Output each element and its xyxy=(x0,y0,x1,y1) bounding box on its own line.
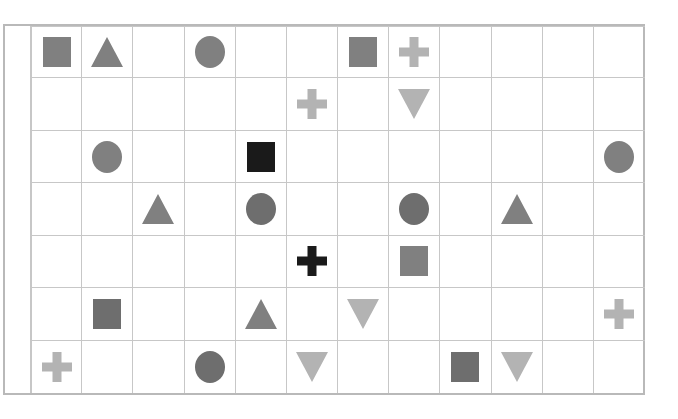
grid-cell[interactable] xyxy=(82,341,133,393)
grid-cell[interactable] xyxy=(287,341,338,393)
grid-cell[interactable] xyxy=(133,183,184,235)
grid-cell[interactable] xyxy=(594,78,645,130)
grid-cell[interactable] xyxy=(543,131,594,183)
grid-cell[interactable] xyxy=(133,341,184,393)
grid-cell[interactable] xyxy=(31,236,82,288)
cross-icon xyxy=(297,246,327,276)
figure-canvas xyxy=(0,0,678,419)
grid-cell[interactable] xyxy=(338,78,389,130)
grid-cell[interactable] xyxy=(543,26,594,78)
grid-cell[interactable] xyxy=(492,288,543,340)
grid-cell[interactable] xyxy=(236,131,287,183)
grid-cell[interactable] xyxy=(492,236,543,288)
grid-cell[interactable] xyxy=(287,26,338,78)
grid-cell[interactable] xyxy=(543,288,594,340)
grid-cell[interactable] xyxy=(287,78,338,130)
triangle-up-icon xyxy=(501,194,533,224)
grid-cell[interactable] xyxy=(389,78,440,130)
grid-cell[interactable] xyxy=(338,131,389,183)
grid-cell[interactable] xyxy=(82,131,133,183)
grid-cell[interactable] xyxy=(389,341,440,393)
grid-cell[interactable] xyxy=(389,288,440,340)
circle-icon xyxy=(399,193,429,225)
grid-cell[interactable] xyxy=(133,288,184,340)
grid-cell[interactable] xyxy=(440,26,491,78)
grid-cell[interactable] xyxy=(389,131,440,183)
grid-cell[interactable] xyxy=(594,131,645,183)
grid-cell[interactable] xyxy=(338,26,389,78)
triangle-down-icon xyxy=(398,89,430,119)
grid-cell[interactable] xyxy=(440,288,491,340)
grid-cell[interactable] xyxy=(31,131,82,183)
grid-cell[interactable] xyxy=(185,183,236,235)
grid-cell[interactable] xyxy=(338,236,389,288)
grid-cell[interactable] xyxy=(492,26,543,78)
grid-cell[interactable] xyxy=(440,236,491,288)
grid-cell[interactable] xyxy=(594,236,645,288)
grid-cell[interactable] xyxy=(185,341,236,393)
grid-cell[interactable] xyxy=(133,131,184,183)
grid-cell[interactable] xyxy=(338,341,389,393)
square-icon xyxy=(400,246,428,276)
grid-cell[interactable] xyxy=(236,288,287,340)
triangle-down-icon xyxy=(501,352,533,382)
grid-cell[interactable] xyxy=(440,131,491,183)
grid-cell[interactable] xyxy=(492,131,543,183)
grid-cell[interactable] xyxy=(236,78,287,130)
grid-cell[interactable] xyxy=(31,26,82,78)
grid-cell[interactable] xyxy=(492,183,543,235)
grid-cell[interactable] xyxy=(236,341,287,393)
grid-cell[interactable] xyxy=(440,78,491,130)
grid-cell[interactable] xyxy=(594,183,645,235)
grid-cell[interactable] xyxy=(236,236,287,288)
grid-cell[interactable] xyxy=(82,288,133,340)
grid-cell[interactable] xyxy=(82,236,133,288)
grid-cell[interactable] xyxy=(389,236,440,288)
grid-cell[interactable] xyxy=(82,26,133,78)
grid-cell[interactable] xyxy=(543,183,594,235)
grid-cell[interactable] xyxy=(543,78,594,130)
grid-cell[interactable] xyxy=(31,288,82,340)
grid-cell[interactable] xyxy=(31,341,82,393)
grid-cell[interactable] xyxy=(287,131,338,183)
grid-cell[interactable] xyxy=(338,288,389,340)
triangle-up-icon xyxy=(142,194,174,224)
grid-cell[interactable] xyxy=(31,183,82,235)
triangle-up-icon xyxy=(91,37,123,67)
grid-cell[interactable] xyxy=(185,236,236,288)
cross-icon xyxy=(399,37,429,67)
grid-cell[interactable] xyxy=(594,26,645,78)
grid-cell[interactable] xyxy=(594,288,645,340)
grid-cell[interactable] xyxy=(287,288,338,340)
grid-cell[interactable] xyxy=(236,26,287,78)
square-icon xyxy=(349,37,377,67)
grid-cell[interactable] xyxy=(82,183,133,235)
cross-icon xyxy=(604,299,634,329)
grid-cell[interactable] xyxy=(492,78,543,130)
grid-cell[interactable] xyxy=(594,341,645,393)
grid-cell[interactable] xyxy=(338,183,389,235)
grid-cell[interactable] xyxy=(133,78,184,130)
circle-icon xyxy=(195,36,225,68)
grid-cell[interactable] xyxy=(133,236,184,288)
grid-cell[interactable] xyxy=(389,183,440,235)
grid-cell[interactable] xyxy=(133,26,184,78)
grid-cell[interactable] xyxy=(492,341,543,393)
shape-grid-frame xyxy=(3,24,645,395)
grid-cell[interactable] xyxy=(185,131,236,183)
grid-cell[interactable] xyxy=(287,183,338,235)
grid-cell[interactable] xyxy=(440,341,491,393)
grid-cell[interactable] xyxy=(185,78,236,130)
grid-cell[interactable] xyxy=(543,341,594,393)
square-icon xyxy=(43,37,71,67)
circle-icon xyxy=(195,351,225,383)
grid-cell[interactable] xyxy=(31,78,82,130)
grid-cell[interactable] xyxy=(185,288,236,340)
grid-cell[interactable] xyxy=(236,183,287,235)
grid-cell[interactable] xyxy=(543,236,594,288)
grid-cell[interactable] xyxy=(82,78,133,130)
grid-cell[interactable] xyxy=(287,236,338,288)
grid-cell[interactable] xyxy=(440,183,491,235)
grid-cell[interactable] xyxy=(185,26,236,78)
grid-cell[interactable] xyxy=(389,26,440,78)
